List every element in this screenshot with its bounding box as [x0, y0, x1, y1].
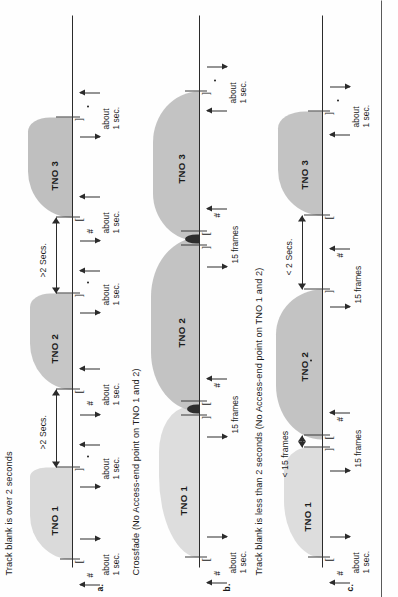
- bracket-open: [: [201, 557, 210, 561]
- interval-arrow: [207, 208, 227, 209]
- interval-arrow: [80, 414, 100, 415]
- interval-label-2-c: 15 frames: [354, 429, 364, 467]
- track-label-tno3-a: TNO 3: [49, 160, 60, 190]
- waveform-tno2-b: [151, 237, 199, 411]
- interval-arrow: [330, 306, 350, 307]
- dot-marker: [87, 455, 89, 457]
- panel-caption-a: Track blank is over 2 seconds: [4, 451, 14, 575]
- interval-arrow: [80, 270, 100, 271]
- hash-marker: #: [336, 417, 344, 422]
- track-label-tno1-b: TNO 1: [178, 485, 189, 515]
- track-label-tno1-c: TNO 1: [302, 501, 313, 531]
- panel-letter-c: c.: [345, 584, 355, 592]
- scanned-page: a. Track blank is over 2 seconds TNO 1 T…: [0, 0, 398, 597]
- interval-arrow: [330, 470, 350, 471]
- interval-label-4-c: about 1 sec.: [352, 101, 371, 127]
- hash-marker: #: [86, 401, 94, 406]
- interval-label-4-a: about 1 sec.: [102, 279, 121, 305]
- timeline-baseline-b: [199, 15, 200, 567]
- bracket-close: ]: [74, 117, 83, 121]
- gap-label-1-a: >2 Secs.: [38, 415, 48, 449]
- gap-label-2-c: < 2 Secs.: [284, 238, 294, 275]
- interval-arrow: [80, 486, 100, 487]
- bracket-close: ]: [74, 467, 83, 471]
- timeline-baseline-a: [72, 15, 73, 567]
- hash-marker: #: [213, 213, 221, 218]
- bracket-open: [: [201, 231, 210, 235]
- interval-arrow: [80, 196, 100, 197]
- bracket-open: [: [74, 217, 83, 221]
- bracket-close: ]: [201, 245, 210, 249]
- bracket-open: [: [324, 557, 333, 561]
- interval-arrow: [80, 312, 100, 313]
- bracket-close: ]: [201, 415, 210, 419]
- interval-arrow: [330, 86, 350, 87]
- hash-marker: #: [213, 571, 221, 576]
- hash-marker: #: [86, 229, 94, 234]
- bracket-close: ]: [324, 289, 333, 293]
- bracket-close: ]: [74, 293, 83, 297]
- page-trim-rule: [381, 0, 382, 597]
- interval-arrow: [80, 136, 100, 137]
- track-label-tno2-b: TNO 2: [176, 317, 187, 347]
- bracket-open: [: [74, 389, 83, 393]
- frames-label-2-b: 15 frames: [231, 225, 241, 263]
- hash-marker: #: [336, 253, 344, 258]
- interval-arrow: [330, 536, 350, 537]
- interval-label-2-a: about 1 sec.: [102, 453, 121, 479]
- interval-label-1-b: about 1 sec.: [229, 547, 248, 573]
- crossfade-overlap-2: [185, 234, 199, 243]
- dot-marker: [337, 99, 339, 101]
- gap-label-1-c: < 15 frames: [280, 430, 290, 477]
- interval-arrow: [80, 368, 100, 369]
- interval-arrow: [207, 266, 227, 267]
- dot-marker: [87, 281, 89, 283]
- interval-arrow: [330, 412, 350, 413]
- interval-label-6-a: about 1 sec.: [102, 103, 121, 129]
- bracket-open: [: [324, 435, 333, 439]
- hash-marker: #: [336, 571, 344, 576]
- panel-caption-c: Track blank is less than 2 seconds (No A…: [254, 267, 264, 575]
- bracket-open: [: [324, 215, 333, 219]
- interval-arrow: [330, 248, 350, 249]
- interval-arrow: [207, 536, 227, 537]
- bracket-open: [: [201, 401, 210, 405]
- track-label-tno3-c: TNO 3: [299, 159, 310, 189]
- interval-label-5-a: about 1 sec.: [102, 207, 121, 233]
- frames-label-1-b: 15 frames: [231, 395, 241, 433]
- bracket-close: ]: [324, 111, 333, 115]
- panel-letter-b: b.: [222, 583, 232, 591]
- interval-arrow: [80, 240, 100, 241]
- diagram-panel-b: b. Crossfade (No Access-end point on TNO…: [127, 0, 259, 597]
- interval-label-1-c: about 1 sec.: [352, 547, 371, 573]
- interval-arrow: [80, 444, 100, 445]
- interval-arrow: [207, 66, 227, 67]
- gap-measure: [56, 217, 57, 293]
- dot-marker: [87, 105, 89, 107]
- bracket-close: ]: [201, 91, 210, 95]
- diagram-panel-a: a. Track blank is over 2 seconds TNO 1 T…: [0, 0, 132, 597]
- panel-caption-b: Crossfade (No Access-end point on TNO 1 …: [131, 368, 141, 575]
- interval-label-3-a: about 1 sec.: [102, 379, 121, 405]
- diagram-panel-c: c. Track blank is less than 2 seconds (N…: [250, 0, 382, 597]
- interval-arrow: [207, 110, 227, 111]
- track-label-tno3-b: TNO 3: [176, 153, 187, 183]
- gap-measure: [56, 389, 57, 467]
- waveform-tno1-b: [159, 407, 199, 557]
- track-label-tno1-a: TNO 1: [49, 505, 60, 535]
- interval-label-2-b: about 1 sec.: [229, 77, 248, 103]
- interval-arrow: [330, 582, 350, 583]
- bracket-open: [: [74, 559, 83, 563]
- gap-measure: [302, 435, 303, 447]
- gap-label-2-a: >2 Secs.: [38, 243, 48, 277]
- crossfade-overlap-1: [187, 404, 199, 413]
- bracket-close: ]: [324, 447, 333, 451]
- dot-marker: [214, 79, 216, 81]
- interval-arrow: [80, 584, 100, 585]
- interval-arrow: [207, 378, 227, 379]
- interval-label-1-a: about 1 sec.: [102, 549, 121, 575]
- interval-arrow: [80, 92, 100, 93]
- gap-measure: [302, 215, 303, 289]
- hash-marker: #: [213, 383, 221, 388]
- track-label-tno2-a: TNO 2: [49, 333, 60, 363]
